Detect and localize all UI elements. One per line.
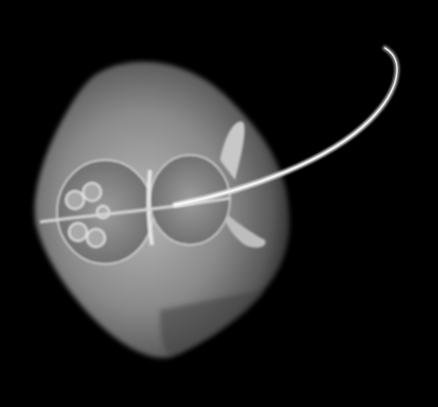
stingray-xray [0, 0, 438, 407]
xray-image [0, 0, 438, 407]
